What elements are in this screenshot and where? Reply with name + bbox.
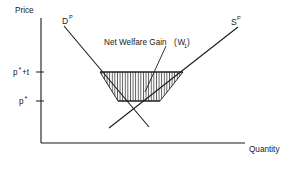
svg-text:P: P bbox=[237, 15, 241, 21]
svg-text:*: * bbox=[25, 94, 28, 103]
demand-curve-label: D P bbox=[62, 14, 73, 26]
svg-text:+t: +t bbox=[22, 68, 30, 77]
svg-text:P: P bbox=[69, 14, 73, 20]
svg-text:D: D bbox=[62, 16, 68, 26]
svg-text:p: p bbox=[19, 97, 24, 106]
diagram-canvas: Price Quantity D P S P p * +t p * Net We… bbox=[0, 0, 283, 169]
y-axis-label: Price bbox=[15, 6, 34, 15]
world-price-label: p * bbox=[19, 94, 28, 106]
svg-text:): ) bbox=[187, 38, 190, 47]
net-welfare-gain-region bbox=[100, 72, 183, 101]
x-axis-label: Quantity bbox=[249, 145, 280, 154]
supply-curve-label: S P bbox=[231, 15, 241, 27]
svg-text:p: p bbox=[13, 68, 18, 77]
welfare-gain-figure: Price Quantity D P S P p * +t p * Net We… bbox=[0, 0, 283, 169]
net-welfare-gain-label: Net Welfare Gain ( W 1 ) bbox=[104, 38, 190, 49]
svg-text:Net Welfare Gain: Net Welfare Gain bbox=[104, 38, 167, 47]
tariff-price-label: p * +t bbox=[13, 65, 30, 77]
